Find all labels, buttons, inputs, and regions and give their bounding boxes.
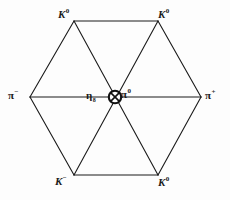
vertex-label-k-minus: K− xyxy=(55,176,67,187)
center-label-pi-zero: π0 xyxy=(121,89,131,100)
particle-symbol: K xyxy=(58,8,65,20)
edge-lower-left xyxy=(30,97,74,175)
hexagon-diagram xyxy=(0,0,230,200)
particle-charge: − xyxy=(15,88,19,96)
center-label-eta: η8 xyxy=(86,90,96,101)
particle-charge: 0 xyxy=(128,87,132,95)
particle-symbol: K xyxy=(158,8,165,20)
vertex-label-pi-minus: π− xyxy=(8,90,19,101)
vertex-label-k0-top-right: K0 xyxy=(158,9,169,20)
particle-charge: 0 xyxy=(166,175,170,183)
vertex-label-k0-top-left: K0 xyxy=(58,9,69,20)
particle-subscript: 8 xyxy=(93,97,96,103)
particle-charge: 0 xyxy=(166,7,170,15)
particle-charge: − xyxy=(63,174,67,182)
particle-symbol: π xyxy=(205,89,211,101)
particle-symbol: η xyxy=(86,89,92,101)
vertex-label-pi-plus: π+ xyxy=(205,90,216,101)
particle-symbol: π xyxy=(121,88,127,100)
vertex-label-k0-bottom-right: K0 xyxy=(158,177,169,188)
particle-charge: 0 xyxy=(66,7,70,15)
edge-lower-right xyxy=(158,97,201,175)
edge-upper-right xyxy=(158,21,201,97)
meson-octet-figure: K0 K0 π− π+ K− K0 η8 π0 xyxy=(0,0,230,200)
particle-symbol: K xyxy=(55,175,62,187)
particle-symbol: π xyxy=(8,89,14,101)
particle-symbol: K xyxy=(158,176,165,188)
particle-charge: + xyxy=(212,88,216,96)
center-circled-x-icon xyxy=(109,91,121,103)
edge-upper-left xyxy=(30,21,74,97)
